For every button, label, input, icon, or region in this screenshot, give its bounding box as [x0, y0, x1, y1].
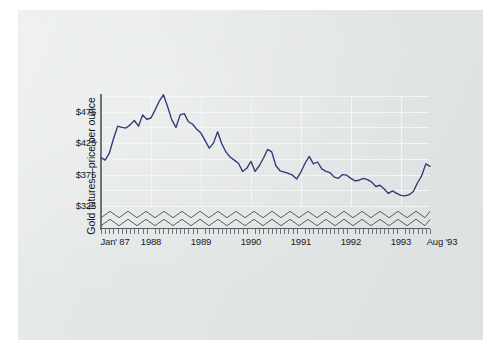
- y-axis-tick-label: $475: [76, 106, 96, 117]
- x-axis-minor-tick: [409, 229, 410, 234]
- x-axis-tick-label: 1988: [141, 236, 161, 247]
- x-axis-minor-tick: [255, 229, 256, 234]
- x-axis-minor-tick: [234, 229, 235, 234]
- x-axis-minor-tick: [380, 229, 381, 234]
- x-axis-minor-tick: [284, 229, 285, 234]
- x-axis-minor-tick: [205, 229, 206, 234]
- x-axis-minor-tick: [122, 229, 123, 234]
- x-axis-minor-tick: [322, 229, 323, 234]
- x-axis-tick-label: 1989: [191, 236, 211, 247]
- x-axis-minor-tick: [118, 229, 119, 234]
- x-axis-minor-tick: [368, 229, 369, 234]
- x-axis-minor-tick: [247, 229, 248, 234]
- vertical-gridline: [251, 96, 252, 206]
- x-axis-minor-tick: [226, 229, 227, 234]
- x-axis-minor-tick: [159, 229, 160, 234]
- x-axis-minor-tick: [330, 229, 331, 234]
- x-axis-minor-tick: [138, 229, 139, 234]
- x-axis-minor-tick: [272, 229, 273, 234]
- x-axis-tick-label: 1992: [341, 236, 361, 247]
- x-axis-minor-tick: [180, 229, 181, 234]
- x-axis-minor-tick: [147, 229, 148, 234]
- x-axis-minor-tick: [418, 229, 419, 234]
- y-axis-tick-label: $325: [76, 200, 96, 211]
- x-axis-minor-tick: [388, 229, 389, 234]
- x-axis-minor-tick: [426, 229, 427, 234]
- x-axis-minor-tick: [101, 229, 102, 234]
- x-axis-minor-tick: [172, 229, 173, 234]
- x-axis-minor-tick: [363, 229, 364, 234]
- x-axis-minor-tick: [293, 229, 294, 234]
- x-axis-minor-tick: [397, 229, 398, 234]
- vertical-gridline: [351, 96, 352, 206]
- x-axis-minor-tick: [230, 229, 231, 234]
- x-axis-minor-tick: [405, 229, 406, 234]
- x-axis-minor-tick: [130, 229, 131, 234]
- x-axis-minor-tick: [343, 229, 344, 234]
- x-axis-minor-tick: [105, 229, 106, 234]
- vertical-gridline: [201, 96, 202, 206]
- x-axis-minor-tick: [309, 229, 310, 234]
- x-axis-minor-tick: [222, 229, 223, 234]
- x-axis-minor-tick: [280, 229, 281, 234]
- horizontal-gridline: [101, 206, 430, 207]
- x-axis-minor-tick: [188, 229, 189, 234]
- vertical-gridline: [151, 96, 152, 206]
- x-axis-tick-labels: Jan' 87198819891990199119921993Aug '93: [0, 236, 499, 252]
- x-axis-tick-label: 1991: [291, 236, 311, 247]
- x-axis-minor-tick: [209, 229, 210, 234]
- x-axis-minor-tick: [213, 229, 214, 234]
- x-axis-minor-tick: [184, 229, 185, 234]
- x-axis-minor-tick: [109, 229, 110, 234]
- x-axis-minor-tick: [334, 229, 335, 234]
- vertical-gridline: [301, 96, 302, 206]
- x-axis-minor-tick: [259, 229, 260, 234]
- x-axis-minor-tick: [263, 229, 264, 234]
- x-axis-minor-tick: [243, 229, 244, 234]
- x-axis-minor-tick: [422, 229, 423, 234]
- x-axis-minor-tick: [126, 229, 127, 234]
- x-axis-minor-tick: [113, 229, 114, 234]
- x-axis-minor-tick: [305, 229, 306, 234]
- y-axis-tick-label: $375: [76, 169, 96, 180]
- y-axis-line: [100, 94, 102, 230]
- x-axis-minor-tick: [318, 229, 319, 234]
- x-axis-tick-label: 1990: [241, 236, 261, 247]
- plot-area: [101, 96, 430, 206]
- x-axis-minor-tick: [347, 229, 348, 234]
- x-axis-minor-tick: [155, 229, 156, 234]
- x-axis-minor-tick: [326, 229, 327, 234]
- x-axis-minor-tick: [176, 229, 177, 234]
- x-axis-tick-label: Jan' 87: [101, 236, 130, 247]
- chart-figure: Gold futures—price per ounce $325$375$42…: [0, 0, 499, 364]
- x-axis-minor-tick: [168, 229, 169, 234]
- x-axis-minor-tick: [359, 229, 360, 234]
- x-axis-minor-tick: [268, 229, 269, 234]
- vertical-gridline: [401, 96, 402, 206]
- x-axis-minor-tick: [134, 229, 135, 234]
- x-axis-minor-tick: [372, 229, 373, 234]
- x-axis-minor-tick: [297, 229, 298, 234]
- y-axis-tick-label: $425: [76, 137, 96, 148]
- x-axis-minor-tick: [143, 229, 144, 234]
- x-axis-tick-label: 1993: [391, 236, 411, 247]
- x-axis-minor-tick: [430, 229, 431, 234]
- x-axis-minor-tick: [376, 229, 377, 234]
- x-axis-minor-tick: [355, 229, 356, 234]
- x-axis-minor-tick: [193, 229, 194, 234]
- x-axis-minor-tick: [197, 229, 198, 234]
- x-axis-minor-tick: [238, 229, 239, 234]
- x-axis-minor-tick: [413, 229, 414, 234]
- x-axis-minor-tick: [338, 229, 339, 234]
- x-axis-minor-tick: [393, 229, 394, 234]
- x-axis-minor-tick: [313, 229, 314, 234]
- x-axis-minor-tick: [384, 229, 385, 234]
- x-axis-minor-tick: [276, 229, 277, 234]
- x-axis-minor-tick: [288, 229, 289, 234]
- x-axis-minor-tick: [163, 229, 164, 234]
- y-axis-tick-labels: $325$375$425$475: [48, 0, 96, 364]
- x-axis-tick-label: Aug '93: [427, 236, 458, 247]
- x-axis-minor-tick: [218, 229, 219, 234]
